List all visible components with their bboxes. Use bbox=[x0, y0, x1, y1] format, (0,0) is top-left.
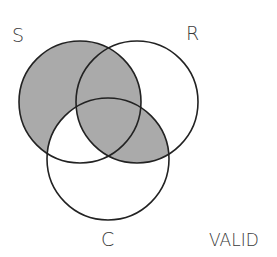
verdict-label: VALID bbox=[209, 230, 259, 250]
label-c: C bbox=[101, 228, 114, 250]
venn-diagram: S R C VALID bbox=[0, 0, 277, 257]
label-r: R bbox=[186, 22, 199, 44]
label-s: S bbox=[12, 24, 24, 46]
